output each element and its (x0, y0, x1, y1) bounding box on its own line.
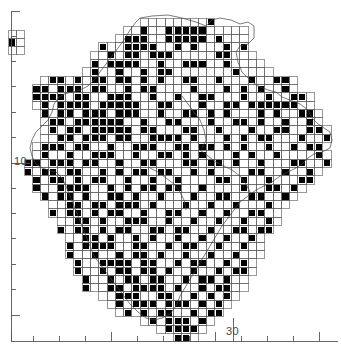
record-square (175, 44, 181, 50)
record-square (150, 185, 156, 191)
record-square (291, 185, 297, 191)
record-square (266, 135, 272, 141)
record-square (150, 127, 156, 133)
record-square (58, 119, 64, 125)
record-square (100, 102, 106, 108)
record-square (224, 276, 230, 282)
record-square (92, 243, 98, 249)
record-square (208, 310, 214, 316)
record-square (58, 86, 64, 92)
record-square (92, 177, 98, 183)
record-square (199, 285, 205, 291)
record-square (166, 102, 172, 108)
record-square (75, 177, 81, 183)
record-square (141, 86, 147, 92)
record-square (108, 235, 114, 241)
record-square (133, 202, 139, 208)
record-square (266, 144, 272, 150)
record-square (158, 135, 164, 141)
record-square (75, 144, 81, 150)
record-square (100, 218, 106, 224)
record-square (199, 152, 205, 158)
record-square (175, 335, 181, 341)
record-square (141, 27, 147, 33)
record-square (116, 160, 122, 166)
record-square (199, 260, 205, 266)
record-square (58, 144, 64, 150)
record-square (199, 102, 205, 108)
record-square (199, 61, 205, 67)
record-square (166, 52, 172, 58)
record-square (208, 227, 214, 233)
record-square (175, 119, 181, 125)
record-square (133, 218, 139, 224)
record-square (233, 152, 239, 158)
record-square (75, 94, 81, 100)
record-square (158, 77, 164, 83)
record-square (282, 127, 288, 133)
record-square (166, 210, 172, 216)
record-square (216, 127, 222, 133)
record-square (183, 252, 189, 258)
record-square (291, 160, 297, 166)
record-square (141, 268, 147, 274)
record-square (166, 119, 172, 125)
record-square (116, 69, 122, 75)
record-square (133, 36, 139, 42)
record-square (266, 202, 272, 208)
record-square (67, 252, 73, 258)
record-square (199, 36, 205, 42)
record-square (241, 218, 247, 224)
record-square (133, 61, 139, 67)
record-square (191, 218, 197, 224)
record-square (282, 193, 288, 199)
record-square (100, 44, 106, 50)
record-square (50, 94, 56, 100)
record-square (316, 127, 322, 133)
record-square (183, 160, 189, 166)
record-square (233, 227, 239, 233)
record-square (183, 335, 189, 341)
record-square (67, 135, 73, 141)
record-square (150, 177, 156, 183)
record-square (141, 243, 147, 249)
record-square (25, 169, 31, 175)
record-square (199, 94, 205, 100)
record-square (233, 160, 239, 166)
record-square (249, 210, 255, 216)
record-square (42, 94, 48, 100)
record-square (175, 318, 181, 324)
record-square (258, 160, 264, 166)
record-square (67, 160, 73, 166)
record-square (42, 86, 48, 92)
record-square (141, 185, 147, 191)
record-square (266, 218, 272, 224)
record-square (50, 210, 56, 216)
record-square (299, 177, 305, 183)
record-square (199, 185, 205, 191)
record-square (100, 127, 106, 133)
record-square (67, 127, 73, 133)
record-square (158, 69, 164, 75)
record-square (216, 243, 222, 249)
record-square (191, 326, 197, 332)
record-square (183, 202, 189, 208)
record-square (216, 218, 222, 224)
record-square (216, 310, 222, 316)
record-square (208, 293, 214, 299)
record-square (166, 36, 172, 42)
record-square (67, 102, 73, 108)
record-square (125, 260, 131, 266)
record-square (191, 86, 197, 92)
record-square (208, 94, 214, 100)
record-square (183, 276, 189, 282)
record-square (241, 135, 247, 141)
record-square (208, 110, 214, 116)
record-square (116, 61, 122, 67)
record-square (158, 102, 164, 108)
record-square (224, 260, 230, 266)
record-square (158, 227, 164, 233)
record-square (92, 119, 98, 125)
record-square (67, 152, 73, 158)
record-square (241, 227, 247, 233)
